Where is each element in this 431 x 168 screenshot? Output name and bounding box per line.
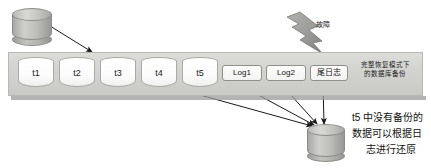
restore-note-line2: 数据可以根据日 — [352, 126, 430, 142]
checkpoint-t1[interactable]: t1 — [18, 57, 54, 90]
fault-bolt-icon — [287, 12, 323, 54]
timeline-caption-line2: 的数据库备份 — [352, 69, 418, 78]
timeline-caption-line1: 完整恢复模式下 — [352, 60, 418, 69]
fault-label: 故障 — [316, 20, 330, 30]
arrow-source-to-timeline — [50, 26, 92, 52]
timeline-caption: 完整恢复模式下 的数据库备份 — [352, 60, 418, 78]
cylinder-top — [12, 8, 52, 21]
cylinder-top — [307, 124, 345, 136]
restore-note-line3: 志进行还原 — [352, 142, 430, 158]
checkpoint-t5[interactable]: t5 — [182, 57, 218, 90]
source-database-cylinder[interactable] — [12, 8, 52, 46]
checkpoint-label: t4 — [141, 67, 177, 79]
checkpoint-label: t2 — [59, 67, 95, 79]
checkpoint-label: t3 — [100, 67, 136, 79]
restore-note: t5 中没有备份的 数据可以根据日 志进行还原 — [352, 110, 430, 158]
checkpoint-label: t1 — [18, 67, 54, 79]
checkpoint-t4[interactable]: t4 — [141, 57, 177, 90]
checkpoint-t2[interactable]: t2 — [59, 57, 95, 90]
log-box-tail-log[interactable]: 尾日志 — [310, 65, 348, 81]
restored-database-cylinder[interactable] — [307, 124, 345, 162]
log-box-log1[interactable]: Log1 — [222, 65, 262, 81]
restore-note-line1: t5 中没有备份的 — [352, 110, 430, 126]
diagram-canvas: t1 t2 t3 t4 t5 Log1 Log2 尾日志 完整恢复模式下 的数据… — [0, 0, 431, 168]
log-box-log2[interactable]: Log2 — [266, 65, 306, 81]
checkpoint-t3[interactable]: t3 — [100, 57, 136, 90]
timeline-bar-shadow — [11, 96, 426, 100]
checkpoint-label: t5 — [182, 67, 218, 79]
